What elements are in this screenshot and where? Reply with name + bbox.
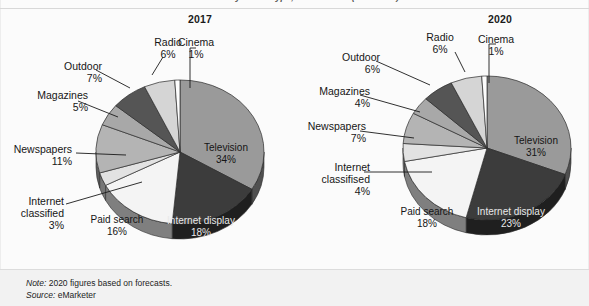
callout-2017-cinema: Cinema 1% [166, 36, 226, 60]
callout-2020-magazines: Magazines 4% [296, 85, 370, 109]
callout-2017-newspapers-name: Newspapers [0, 143, 72, 155]
pie-svg-2020 [392, 66, 582, 266]
callout-2020-cinema-name: Cinema [466, 33, 526, 45]
footer-source-lead: Source: [26, 290, 55, 300]
callout-2020-cinema: Cinema 1% [466, 33, 526, 57]
figure-clipped-title: ad share by media type, 2017 & 2020 (% o… [0, 0, 589, 2]
callout-2020-internet-classified-pct: 4% [298, 185, 370, 197]
callout-2020-outdoor-pct: 6% [314, 63, 380, 75]
pie-svg-2017 [85, 70, 275, 270]
callout-2020-radio: Radio 6% [410, 31, 470, 55]
callout-2017-internet-classified-pct: 3% [2, 219, 64, 231]
footer-note-lead: Note: [26, 278, 46, 288]
callout-2017-cinema-name: Cinema [166, 36, 226, 48]
callout-2020-internet-classified: Internet classifised 4% [298, 161, 370, 198]
callout-2020-newspapers-name: Newspapers [288, 120, 366, 132]
callout-2017-newspapers: Newspapers 11% [0, 143, 72, 167]
footer-source: Source: eMarketer [26, 290, 96, 300]
callout-2020-radio-name: Radio [410, 31, 470, 43]
footer-source-text: eMarketer [55, 290, 96, 300]
callout-2017-magazines: Magazines 5% [14, 89, 88, 113]
callout-2017-internet-classified-name2: classified [2, 207, 64, 219]
pie-top-2017 [96, 80, 264, 224]
callout-2017-outdoor: Outdoor 7% [36, 60, 102, 84]
callout-2017-internet-classified-name1: Internet [2, 195, 64, 207]
callout-2017-cinema-pct: 1% [166, 48, 226, 60]
callout-2017-newspapers-pct: 11% [0, 155, 72, 167]
header-divider [0, 8, 589, 9]
callout-2017-magazines-pct: 5% [14, 101, 88, 113]
callout-2020-internet-classified-name1: Internet [298, 161, 370, 173]
panel-title-2020: 2020 [440, 13, 560, 25]
callout-2020-internet-classified-name2: classifised [298, 173, 370, 185]
callout-2020-magazines-name: Magazines [296, 85, 370, 97]
callout-2020-magazines-pct: 4% [296, 97, 370, 109]
callout-2017-magazines-name: Magazines [14, 89, 88, 101]
footer-note: Note: 2020 figures based on forecasts. [26, 278, 172, 288]
pie-chart-2017 [85, 70, 275, 270]
pie-chart-2020 [392, 66, 582, 266]
callout-2020-outdoor-name: Outdoor [314, 51, 380, 63]
callout-2017-outdoor-name: Outdoor [36, 60, 102, 72]
callout-2020-cinema-pct: 1% [466, 45, 526, 57]
callout-2020-outdoor: Outdoor 6% [314, 51, 380, 75]
callout-2017-internet-classified: Internet classified 3% [2, 195, 64, 232]
pie-top-2020 [403, 76, 571, 220]
footer-note-text: 2020 figures based on forecasts. [46, 278, 172, 288]
panel-title-2017: 2017 [140, 13, 260, 25]
callout-2020-newspapers: Newspapers 7% [288, 120, 366, 144]
callout-2020-newspapers-pct: 7% [288, 132, 366, 144]
callout-2020-radio-pct: 6% [410, 43, 470, 55]
callout-2017-outdoor-pct: 7% [36, 72, 102, 84]
